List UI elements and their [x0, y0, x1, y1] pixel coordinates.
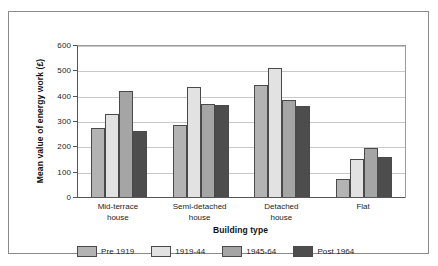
bar [91, 128, 105, 198]
y-tick-label: 200 [57, 142, 71, 151]
x-axis-line [77, 197, 405, 198]
y-tick-mark [73, 96, 77, 97]
y-tick-mark [73, 70, 77, 71]
plot-area [77, 45, 406, 198]
x-axis-category-label: Flat [322, 202, 404, 213]
bar [296, 106, 310, 198]
y-tick-label: 100 [57, 167, 71, 176]
bar-group [242, 46, 324, 198]
legend-label: Post 1964 [317, 247, 354, 256]
y-axis-title: Mean value of energy work (£) [33, 45, 47, 197]
bar [119, 91, 133, 198]
y-tick-mark [73, 146, 77, 147]
legend-item[interactable]: Post 1964 [293, 246, 354, 257]
bar [187, 87, 201, 198]
legend-item[interactable]: Pre 1919 [77, 246, 134, 257]
x-axis-category-label: Mid-terrace house [77, 202, 159, 223]
bar [350, 159, 364, 198]
chart-frame: Mean value of energy work (£) 0100200300… [8, 11, 429, 254]
bar [105, 114, 119, 198]
x-axis-title: Building type [77, 225, 404, 235]
legend-label: Pre 1919 [101, 247, 134, 256]
legend-swatch-icon [293, 246, 313, 257]
bar [364, 148, 378, 198]
y-tick-label: 400 [57, 91, 71, 100]
legend-item[interactable]: 1945-64 [222, 246, 276, 257]
bar [133, 131, 147, 198]
bar [268, 68, 282, 198]
bar [254, 85, 268, 198]
bar-group [160, 46, 242, 198]
bar [336, 179, 350, 198]
y-tick-mark [73, 45, 77, 46]
bar [282, 100, 296, 198]
x-axis-category-label: Detached house [241, 202, 323, 223]
y-tick-label: 500 [57, 66, 71, 75]
legend-label: 1919-44 [175, 247, 205, 256]
legend-swatch-icon [222, 246, 242, 257]
legend-swatch-icon [151, 246, 171, 257]
bar-group [323, 46, 405, 198]
y-tick-mark [73, 172, 77, 173]
legend-item[interactable]: 1919-44 [151, 246, 205, 257]
legend-swatch-icon [77, 246, 97, 257]
x-axis-category-label: Semi-detached house [159, 202, 241, 223]
chart-figure: Mean value of energy work (£) 0100200300… [0, 0, 438, 266]
y-tick-label: 300 [57, 117, 71, 126]
bar [201, 104, 215, 198]
y-tick-mark [73, 121, 77, 122]
y-tick-label: 0 [66, 193, 71, 202]
chart-legend: Pre 19191919-441945-64Post 1964 [77, 244, 404, 258]
y-tick-mark [73, 197, 77, 198]
y-tick-label: 600 [57, 41, 71, 50]
bar [215, 105, 229, 198]
bar [173, 125, 187, 198]
bar [378, 157, 392, 198]
bar-group [78, 46, 160, 198]
legend-label: 1945-64 [246, 247, 276, 256]
